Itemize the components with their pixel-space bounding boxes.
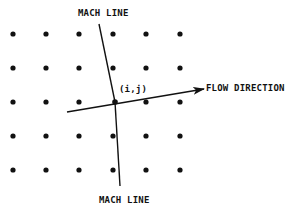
grid-dot xyxy=(177,31,182,36)
grid-dot xyxy=(177,65,182,70)
grid-dot xyxy=(43,65,48,70)
grid-point-label: (i,j) xyxy=(119,84,147,94)
grid-dot xyxy=(43,99,48,104)
characteristics-diagram xyxy=(0,0,297,215)
grid-dot xyxy=(76,65,81,70)
grid-dot xyxy=(143,65,148,70)
grid-dot xyxy=(43,133,48,138)
grid-dot xyxy=(76,99,81,104)
grid-dot xyxy=(177,167,182,172)
grid-dot xyxy=(43,31,48,36)
grid-dot xyxy=(10,133,15,138)
grid-dot xyxy=(143,31,148,36)
grid-dot xyxy=(143,167,148,172)
grid-dot xyxy=(110,31,115,36)
grid-dot xyxy=(110,167,115,172)
grid-dot xyxy=(143,99,148,104)
grid-dot xyxy=(43,167,48,172)
grid-dot xyxy=(110,65,115,70)
mach-line-bottom-label: MACH LINE xyxy=(99,195,150,205)
grid-dot xyxy=(76,31,81,36)
grid-dot xyxy=(76,167,81,172)
grid-dot xyxy=(10,31,15,36)
grid-dot xyxy=(110,133,115,138)
grid-dot xyxy=(177,99,182,104)
mach-line-lower xyxy=(115,102,120,186)
grid-dot xyxy=(10,65,15,70)
grid-dot xyxy=(10,99,15,104)
grid-points xyxy=(10,31,182,172)
grid-dot xyxy=(76,133,81,138)
flow-direction-label: FLOW DIRECTION xyxy=(206,83,285,93)
mach-line-top-label: MACH LINE xyxy=(78,8,129,18)
center-grid-point xyxy=(112,99,118,105)
grid-dot xyxy=(10,167,15,172)
grid-dot xyxy=(177,133,182,138)
grid-dot xyxy=(143,133,148,138)
